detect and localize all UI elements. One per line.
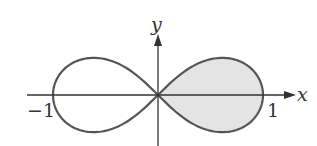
tick-label-neg-one: −1 [27,99,55,121]
lemniscate-diagram: x y −1 1 [0,0,317,146]
x-axis-arrow-icon [284,91,296,99]
y-axis-label: y [150,13,162,35]
tick-label-one: 1 [267,99,279,121]
y-axis-arrow-icon [154,34,162,46]
x-axis-label: x [297,83,308,105]
